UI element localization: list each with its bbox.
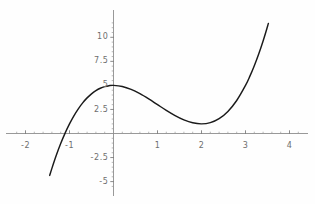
x-tick-label: 4: [287, 142, 293, 150]
y-tick-label: 10: [97, 33, 108, 41]
y-tick-label: 5: [103, 81, 109, 89]
x-tick-label: 2: [199, 142, 205, 150]
y-tick-label: 7.5: [94, 57, 109, 65]
y-tick-label: 2.5: [94, 106, 109, 114]
cubic-curve: [50, 23, 269, 175]
x-tick-label: 3: [243, 142, 249, 150]
series-group: [50, 23, 269, 175]
plot-svg: [0, 0, 315, 204]
x-tick-label: -2: [21, 142, 30, 150]
x-tick-label: 1: [155, 142, 161, 150]
y-tick-label: -5: [99, 178, 108, 186]
x-tick-label: -1: [65, 142, 74, 150]
y-tick-label: -2.5: [90, 154, 108, 162]
plot-canvas: -2-11234107.552.5-2.5-5: [0, 0, 315, 204]
